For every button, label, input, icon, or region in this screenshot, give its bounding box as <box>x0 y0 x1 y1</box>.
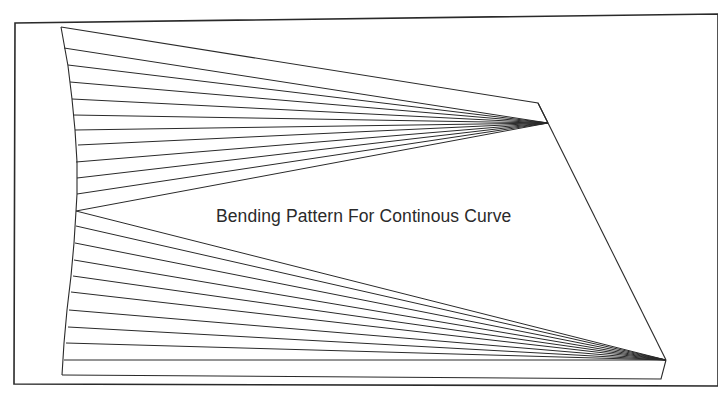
fan-line <box>74 260 666 360</box>
fan-line <box>77 123 548 178</box>
right-edge-line <box>548 123 666 360</box>
fan-line <box>66 343 666 360</box>
fan-line <box>76 226 666 360</box>
fan-line <box>75 243 666 360</box>
fan-line <box>71 292 666 360</box>
fan-line <box>76 211 666 360</box>
fan-line <box>64 48 548 123</box>
fan-line <box>76 123 548 211</box>
fan-line <box>68 65 548 123</box>
top-outline <box>61 27 548 123</box>
diagram-title: Bending Pattern For Continous Curve <box>216 206 511 227</box>
top-corner-join <box>538 103 548 123</box>
top-fan-lines <box>61 27 548 211</box>
bottom-outline <box>62 360 666 379</box>
bending-pattern-drawing <box>0 0 718 401</box>
left-curve-line <box>61 27 77 375</box>
diagram-canvas: Bending Pattern For Continous Curve <box>0 0 718 401</box>
fan-line <box>68 327 666 360</box>
right-diagonal-edge <box>538 103 666 360</box>
left-curve <box>61 27 77 375</box>
bottom-fan-lines <box>62 211 666 379</box>
